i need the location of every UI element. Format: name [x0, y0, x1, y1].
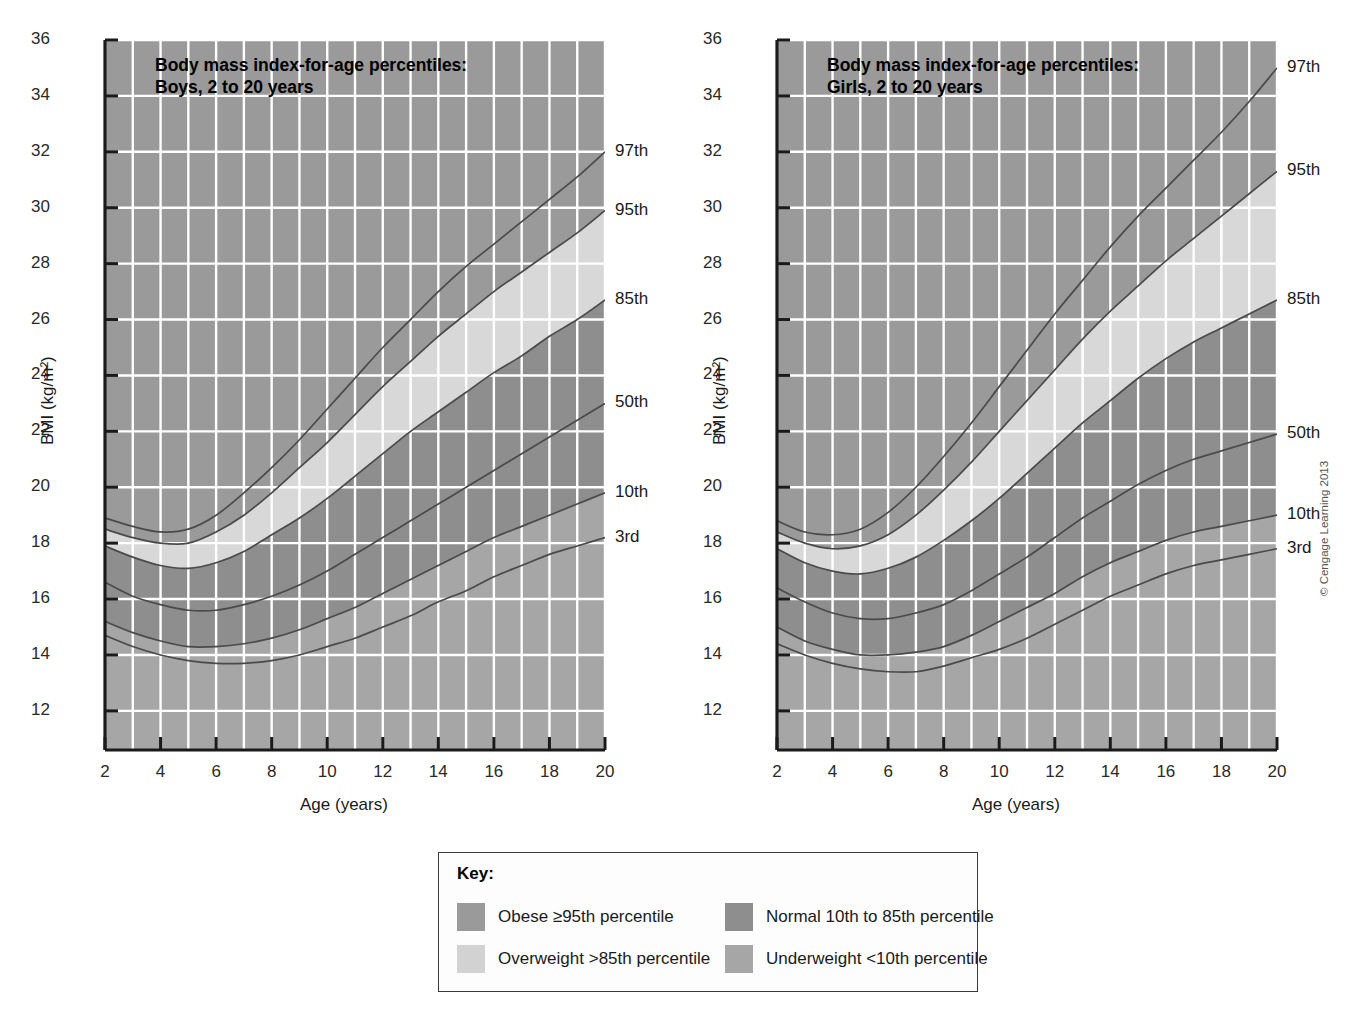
- percentile-label-95th: 95th: [615, 200, 648, 220]
- x-tick-label: 18: [1201, 762, 1241, 782]
- x-tick-label: 6: [868, 762, 908, 782]
- y-axis-title: BMI (kg/m²): [38, 356, 58, 445]
- y-tick-label: 34: [682, 85, 722, 105]
- panel-title-girls: Body mass index-for-age percentiles: Gir…: [827, 55, 1139, 99]
- key-label-normal: Normal 10th to 85th percentile: [766, 907, 994, 927]
- key-label-underweight: Underweight <10th percentile: [766, 949, 988, 969]
- key-legend-box: Key: Obese ≥95th percentile Overweight >…: [438, 852, 978, 992]
- x-tick-label: 4: [813, 762, 853, 782]
- x-tick-label: 18: [529, 762, 569, 782]
- percentile-label-3rd: 3rd: [615, 527, 640, 547]
- chart-panel-girls: 1214161820222426283032343624681012141618…: [672, 0, 1352, 830]
- y-tick-label: 16: [682, 588, 722, 608]
- percentile-label-97th: 97th: [1287, 57, 1320, 77]
- key-title: Key:: [457, 864, 494, 884]
- x-tick-label: 8: [924, 762, 964, 782]
- y-tick-label: 18: [682, 532, 722, 552]
- x-tick-label: 12: [1035, 762, 1075, 782]
- y-tick-label: 12: [10, 700, 50, 720]
- y-tick-label: 16: [10, 588, 50, 608]
- y-axis-title: BMI (kg/m²): [710, 356, 730, 445]
- x-tick-label: 2: [757, 762, 797, 782]
- x-tick-label: 4: [141, 762, 181, 782]
- x-tick-label: 10: [979, 762, 1019, 782]
- x-tick-label: 16: [1146, 762, 1186, 782]
- key-entry-normal: Normal 10th to 85th percentile: [725, 903, 994, 931]
- copyright-notice: © Cengage Learning 2013: [1318, 461, 1330, 596]
- y-tick-label: 28: [10, 253, 50, 273]
- percentile-label-95th: 95th: [1287, 160, 1320, 180]
- y-tick-label: 20: [682, 476, 722, 496]
- y-tick-label: 32: [10, 141, 50, 161]
- key-swatch-underweight: [725, 945, 753, 973]
- x-tick-label: 14: [1090, 762, 1130, 782]
- percentile-label-85th: 85th: [1287, 289, 1320, 309]
- percentile-label-10th: 10th: [615, 482, 648, 502]
- key-swatch-overweight: [457, 945, 485, 973]
- percentile-label-3rd: 3rd: [1287, 538, 1312, 558]
- x-tick-label: 12: [363, 762, 403, 782]
- x-tick-label: 6: [196, 762, 236, 782]
- y-tick-label: 14: [682, 644, 722, 664]
- plot-area-girls: [672, 0, 1352, 830]
- y-tick-label: 30: [682, 197, 722, 217]
- key-entry-obese: Obese ≥95th percentile: [457, 903, 674, 931]
- y-tick-label: 34: [10, 85, 50, 105]
- x-tick-label: 20: [1257, 762, 1297, 782]
- key-label-overweight: Overweight >85th percentile: [498, 949, 710, 969]
- percentile-label-85th: 85th: [615, 289, 648, 309]
- plot-area-boys: [0, 0, 680, 830]
- y-tick-label: 14: [10, 644, 50, 664]
- x-axis-title: Age (years): [300, 795, 388, 815]
- y-tick-label: 36: [682, 29, 722, 49]
- y-tick-label: 18: [10, 532, 50, 552]
- y-tick-label: 36: [10, 29, 50, 49]
- y-tick-label: 28: [682, 253, 722, 273]
- y-tick-label: 32: [682, 141, 722, 161]
- percentile-label-50th: 50th: [1287, 423, 1320, 443]
- x-tick-label: 16: [474, 762, 514, 782]
- x-tick-label: 8: [252, 762, 292, 782]
- y-tick-label: 20: [10, 476, 50, 496]
- y-tick-label: 26: [10, 309, 50, 329]
- chart-panel-boys: 1214161820222426283032343624681012141618…: [0, 0, 680, 830]
- key-entry-overweight: Overweight >85th percentile: [457, 945, 710, 973]
- x-tick-label: 20: [585, 762, 625, 782]
- x-tick-label: 10: [307, 762, 347, 782]
- percentile-label-97th: 97th: [615, 141, 648, 161]
- key-swatch-obese: [457, 903, 485, 931]
- x-axis-title: Age (years): [972, 795, 1060, 815]
- percentile-label-10th: 10th: [1287, 504, 1320, 524]
- y-tick-label: 12: [682, 700, 722, 720]
- key-label-obese: Obese ≥95th percentile: [498, 907, 674, 927]
- panel-title-boys: Body mass index-for-age percentiles: Boy…: [155, 55, 467, 99]
- y-tick-label: 26: [682, 309, 722, 329]
- key-entry-underweight: Underweight <10th percentile: [725, 945, 988, 973]
- y-tick-label: 30: [10, 197, 50, 217]
- x-tick-label: 2: [85, 762, 125, 782]
- key-swatch-normal: [725, 903, 753, 931]
- x-tick-label: 14: [418, 762, 458, 782]
- percentile-label-50th: 50th: [615, 392, 648, 412]
